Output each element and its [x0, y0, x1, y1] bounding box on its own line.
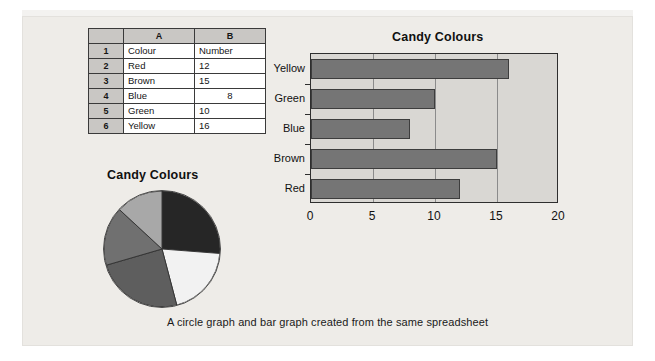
cell-b6[interactable]: 16	[195, 119, 266, 134]
x-tick-label-0: 0	[295, 209, 325, 223]
row-header-4[interactable]: 4	[89, 89, 124, 104]
cell-a4[interactable]: Blue	[124, 89, 195, 104]
column-header-b[interactable]: B	[195, 29, 266, 44]
bar-chart: Candy Colours RedBrownBlueGreenYellow 05…	[260, 28, 580, 218]
cell-a3[interactable]: Brown	[124, 74, 195, 89]
bar-category-label-yellow: Yellow	[260, 62, 305, 74]
bar-category-label-brown: Brown	[260, 152, 305, 164]
x-tick-label-20: 20	[543, 209, 573, 223]
cell-a5[interactable]: Green	[124, 104, 195, 119]
cell-b1[interactable]: Number	[195, 44, 266, 59]
x-tick-label-10: 10	[419, 209, 449, 223]
x-tick-label-15: 15	[481, 209, 511, 223]
table-row: 2 Red 12	[89, 59, 266, 74]
bar-chart-title: Candy Colours	[392, 30, 484, 44]
cell-b5[interactable]: 10	[195, 104, 266, 119]
spreadsheet-corner-cell[interactable]	[89, 29, 124, 44]
row-header-5[interactable]: 5	[89, 104, 124, 119]
row-header-6[interactable]: 6	[89, 119, 124, 134]
bar-category-label-blue: Blue	[260, 122, 305, 134]
pie-chart-title: Candy Colours	[107, 168, 199, 182]
pie-chart-circle	[103, 190, 221, 308]
row-header-2[interactable]: 2	[89, 59, 124, 74]
table-row: 6 Yellow 16	[89, 119, 266, 134]
cell-a6[interactable]: Yellow	[124, 119, 195, 134]
bar-chart-category-labels: RedBrownBlueGreenYellow	[260, 53, 580, 203]
table-row: 5 Green 10	[89, 104, 266, 119]
bar-category-label-green: Green	[260, 92, 305, 104]
scanned-page: A B 1 Colour Number 2 Red 12 3 Brown 15 …	[0, 0, 655, 361]
cell-a1[interactable]: Colour	[124, 44, 195, 59]
figure-caption: A circle graph and bar graph created fro…	[0, 316, 655, 328]
row-header-3[interactable]: 3	[89, 74, 124, 89]
table-row: 3 Brown 15	[89, 74, 266, 89]
cell-b3[interactable]: 15	[195, 74, 266, 89]
pie-slices	[104, 191, 220, 307]
pie-slice-yellow	[162, 191, 220, 253]
spreadsheet-table[interactable]: A B 1 Colour Number 2 Red 12 3 Brown 15 …	[88, 28, 266, 134]
x-tick-label-5: 5	[357, 209, 387, 223]
column-header-a[interactable]: A	[124, 29, 195, 44]
pie-chart: Candy Colours	[75, 168, 275, 308]
table-row: 1 Colour Number	[89, 44, 266, 59]
cell-b2[interactable]: 12	[195, 59, 266, 74]
cell-b4[interactable]: 8	[195, 89, 266, 104]
cell-a2[interactable]: Red	[124, 59, 195, 74]
spreadsheet-header-row: A B	[89, 29, 266, 44]
table-row: 4 Blue 8	[89, 89, 266, 104]
row-header-1[interactable]: 1	[89, 44, 124, 59]
